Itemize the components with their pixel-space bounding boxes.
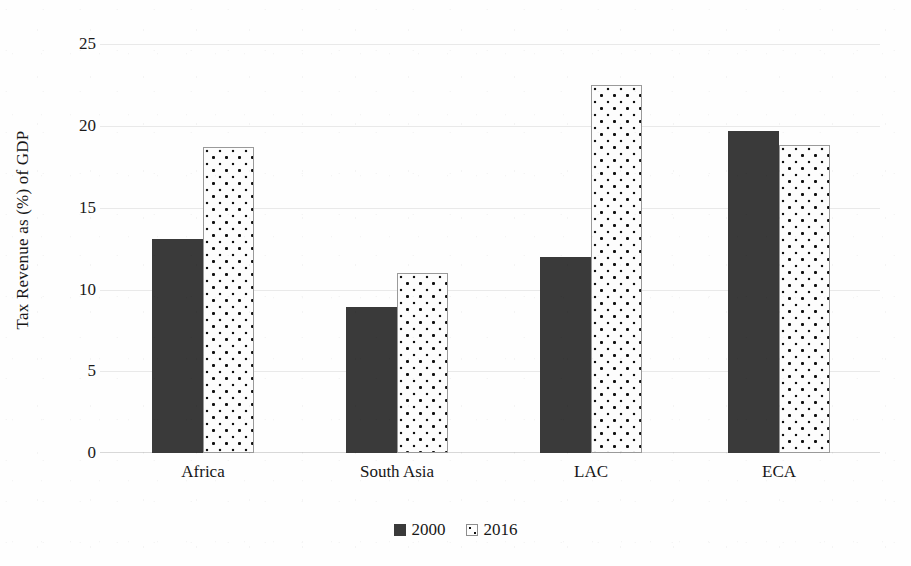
plot-area: [100, 44, 880, 453]
x-tick-label-eca: ECA: [689, 462, 869, 482]
bar-south-asia-2016: [397, 273, 448, 453]
y-tick-label-10: 10: [52, 280, 96, 300]
bar-africa-2000: [152, 239, 203, 453]
legend-item-2016: 2016: [466, 520, 518, 540]
bar-south-asia-2000: [346, 307, 397, 453]
x-tick-label-south-asia: South Asia: [307, 462, 487, 482]
legend-label-2000: 2000: [412, 520, 446, 540]
bar-africa-2016: [203, 147, 254, 453]
x-tick-label-africa: Africa: [113, 462, 293, 482]
x-axis-tick-labels: Africa South Asia LAC ECA: [100, 462, 880, 496]
bar-group-africa: [152, 44, 254, 453]
y-tick-label-15: 15: [52, 198, 96, 218]
y-tick-label-20: 20: [52, 116, 96, 136]
bar-eca-2000: [728, 131, 779, 453]
bar-lac-2016: [591, 85, 642, 453]
y-tick-label-5: 5: [52, 361, 96, 381]
y-axis-title: Tax Revenue as (%) of GDP: [0, 0, 46, 460]
bar-group-eca: [728, 44, 830, 453]
y-axis-tick-labels: 25 20 15 10 5 0: [48, 0, 96, 566]
dotted-square-icon: [466, 524, 478, 536]
bar-chart-figure: Tax Revenue as (%) of GDP 25 20 15 10 5 …: [0, 0, 911, 566]
y-axis-title-label: Tax Revenue as (%) of GDP: [13, 131, 33, 330]
legend-item-2000: 2000: [394, 520, 446, 540]
y-tick-label-25: 25: [52, 34, 96, 54]
bar-group-lac: [540, 44, 642, 453]
legend-label-2016: 2016: [484, 520, 518, 540]
y-tick-label-0: 0: [52, 443, 96, 463]
x-tick-label-lac: LAC: [501, 462, 681, 482]
bar-eca-2016: [779, 145, 830, 453]
bar-lac-2000: [540, 257, 591, 453]
bar-group-south-asia: [346, 44, 448, 453]
filled-square-icon: [394, 524, 406, 536]
chart-legend: 2000 2016: [0, 520, 911, 540]
